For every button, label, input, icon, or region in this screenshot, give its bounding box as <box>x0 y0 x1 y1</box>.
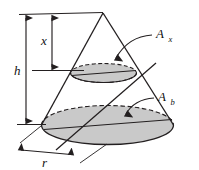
label-area-base-main: A <box>157 89 166 104</box>
label-area-cross-section-sub: x <box>167 34 172 44</box>
cone-diagram-canvas: h x r A x A b <box>0 0 199 170</box>
label-area-base: A b <box>157 87 175 107</box>
radius-dimension-line <box>21 150 71 155</box>
label-x-distance: x <box>40 33 47 48</box>
label-area-cross-section: A x <box>155 24 172 44</box>
radius-extension-left <box>20 126 41 143</box>
label-area-cross-section-main: A <box>155 26 164 41</box>
radius-extension-center <box>80 144 107 163</box>
label-area-base-sub: b <box>170 97 174 107</box>
cone-diagram-figure: h x r A x A b <box>0 0 199 170</box>
label-radius: r <box>42 155 48 170</box>
label-height: h <box>14 63 21 78</box>
leader-line-ax <box>116 35 152 58</box>
apex-extension-line <box>19 13 103 15</box>
